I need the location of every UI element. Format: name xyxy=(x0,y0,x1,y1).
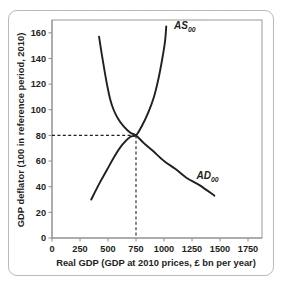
x-axis-title: Real GDP (GDP at 2010 prices, £ bn per y… xyxy=(56,257,256,268)
x-axis-tick-labels: 02505007501000125015001750 xyxy=(49,244,258,254)
x-tick-label: 1000 xyxy=(154,244,174,254)
y-tick-label: 60 xyxy=(36,156,46,166)
equilibrium-guide-lines xyxy=(52,135,136,238)
curve-label-ad00: AD00 xyxy=(195,170,218,183)
y-tick-label: 40 xyxy=(36,182,46,192)
y-axis-tick-marks xyxy=(49,33,53,238)
chart-container: 020406080100120140160 025050075010001250… xyxy=(0,0,283,286)
y-tick-label: 100 xyxy=(31,105,46,115)
y-axis-tick-labels: 020406080100120140160 xyxy=(31,28,46,243)
x-tick-label: 250 xyxy=(72,244,87,254)
y-tick-label: 20 xyxy=(36,208,46,218)
y-tick-label: 140 xyxy=(31,54,46,64)
y-tick-label: 120 xyxy=(31,79,46,89)
x-tick-label: 0 xyxy=(49,244,54,254)
y-axis-title: GDP deflator (100 in reference period, 2… xyxy=(15,33,26,228)
curve-labels: AS00AD00 xyxy=(173,20,219,183)
x-tick-label: 750 xyxy=(128,244,143,254)
y-tick-label: 80 xyxy=(36,131,46,141)
x-tick-label: 1250 xyxy=(182,244,202,254)
curve-label-as00: AS00 xyxy=(173,20,196,33)
y-tick-label: 160 xyxy=(31,28,46,38)
as-ad-chart: 020406080100120140160 025050075010001250… xyxy=(0,0,283,286)
x-tick-label: 1500 xyxy=(210,244,230,254)
x-axis-tick-marks xyxy=(52,238,248,242)
plot-frame xyxy=(52,20,262,238)
curve-as00 xyxy=(91,26,166,199)
x-tick-label: 500 xyxy=(100,244,115,254)
y-tick-label: 0 xyxy=(41,233,46,243)
x-tick-label: 1750 xyxy=(238,244,258,254)
